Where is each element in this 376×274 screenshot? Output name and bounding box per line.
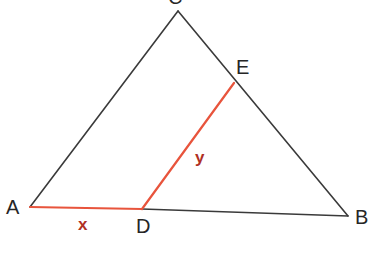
- vertex-label-e: E: [236, 57, 249, 77]
- vertex-label-b: B: [355, 207, 368, 227]
- segment-AD-line: [30, 207, 142, 209]
- diagram-canvas: [0, 0, 376, 274]
- side-AC-line: [30, 11, 178, 207]
- segment-label-y: y: [195, 149, 204, 166]
- geometry-diagram: C A B D E x y: [0, 0, 376, 274]
- vertex-label-d: D: [136, 216, 150, 236]
- segment-DE-line: [142, 83, 234, 209]
- side-CB-line: [178, 11, 348, 216]
- vertex-label-a: A: [6, 197, 19, 217]
- side-DB-line: [142, 209, 348, 216]
- segment-label-x: x: [78, 216, 87, 233]
- vertex-label-c: C: [168, 0, 182, 7]
